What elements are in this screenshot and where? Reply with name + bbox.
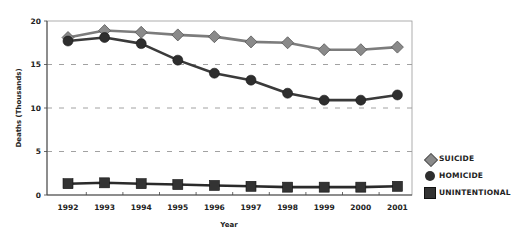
data-point <box>283 88 293 98</box>
x-tick-label: 1994 <box>131 203 152 212</box>
data-point <box>282 37 294 49</box>
x-tick-label: 1999 <box>314 203 335 212</box>
y-axis-ticks: 05101520 <box>31 17 47 200</box>
circle-marker-icon <box>424 170 435 181</box>
x-tick-label: 1993 <box>94 203 115 212</box>
x-tick-label: 1998 <box>277 203 298 212</box>
data-point <box>356 95 366 105</box>
data-point <box>245 36 257 48</box>
legend-label: HOMICIDE <box>439 171 483 180</box>
legend-item-homicide: HOMICIDE <box>424 167 511 184</box>
data-point <box>136 179 146 189</box>
y-tick-label: 15 <box>31 60 41 69</box>
data-point <box>246 181 256 191</box>
data-point <box>172 29 184 41</box>
gridlines <box>47 65 412 152</box>
data-point <box>356 182 366 192</box>
series-lines <box>62 25 403 193</box>
data-point <box>392 90 402 100</box>
y-tick-label: 0 <box>36 191 41 200</box>
y-axis-title: Deaths (Thousands) <box>15 68 23 147</box>
y-tick-label: 10 <box>31 104 41 113</box>
x-tick-label: 2000 <box>350 203 371 212</box>
data-point <box>173 180 183 190</box>
x-tick-label: 2001 <box>387 203 408 212</box>
y-tick-label: 5 <box>36 147 41 156</box>
data-point <box>100 33 110 43</box>
data-point <box>246 75 256 85</box>
series-homicide <box>63 33 402 106</box>
x-tick-label: 1992 <box>58 203 79 212</box>
square-marker-icon <box>424 187 435 198</box>
data-point <box>208 31 220 43</box>
data-point <box>391 41 403 53</box>
legend-label: SUICIDE <box>439 154 474 163</box>
data-point <box>63 36 73 46</box>
series-unintentional <box>63 178 402 192</box>
legend: SUICIDE HOMICIDE UNINTENTIONAL <box>424 150 511 201</box>
data-point <box>319 182 329 192</box>
x-tick-label: 1996 <box>204 203 225 212</box>
data-point <box>318 44 330 56</box>
data-point <box>355 44 367 56</box>
x-tick-label: 1995 <box>167 203 188 212</box>
data-point <box>136 39 146 49</box>
data-point <box>209 180 219 190</box>
legend-item-unintentional: UNINTENTIONAL <box>424 184 511 201</box>
data-point <box>135 26 147 38</box>
data-point <box>319 95 329 105</box>
data-point <box>63 179 73 189</box>
data-point <box>283 182 293 192</box>
data-point <box>209 68 219 78</box>
x-tick-label: 1997 <box>241 203 262 212</box>
line-chart: 05101520 1992199319941995199619971998199… <box>0 0 524 239</box>
x-axis-title: Year <box>219 221 238 229</box>
legend-item-suicide: SUICIDE <box>424 150 511 167</box>
diamond-marker-icon <box>424 153 435 164</box>
y-tick-label: 20 <box>31 17 41 26</box>
legend-label: UNINTENTIONAL <box>439 188 511 197</box>
data-point <box>100 178 110 188</box>
data-point <box>173 55 183 65</box>
data-point <box>392 181 402 191</box>
